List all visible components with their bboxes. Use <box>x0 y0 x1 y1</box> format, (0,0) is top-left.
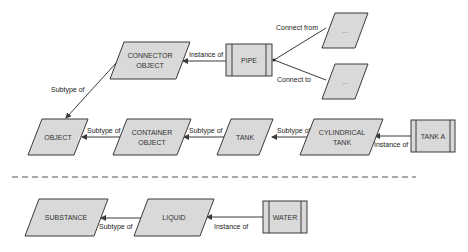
node-tank[interactable]: TANK <box>217 119 273 155</box>
svg-text:...: ... <box>342 77 349 86</box>
edge-label: Instance of <box>214 223 248 230</box>
edge-pipe-connect-to: Connect to <box>274 60 326 83</box>
svg-text:OBJECT: OBJECT <box>44 134 72 141</box>
svg-text:...: ... <box>342 26 349 35</box>
edge-label: Subtype of <box>51 86 85 94</box>
svg-text:WATER: WATER <box>273 214 298 221</box>
svg-text:TANK A: TANK A <box>421 133 446 140</box>
edge-water-instance-of-liquid: Instance of <box>207 217 263 230</box>
svg-text:OBJECT: OBJECT <box>138 139 166 146</box>
node-substance[interactable]: SUBSTANCE <box>25 199 108 236</box>
svg-text:CONNECTOR: CONNECTOR <box>128 52 173 59</box>
edge-label: Connect to <box>277 76 311 83</box>
svg-text:TANK: TANK <box>236 134 254 141</box>
node-connect-from-target[interactable]: ... <box>322 13 368 48</box>
node-connector-object[interactable]: CONNECTOR OBJECT <box>110 42 190 79</box>
svg-text:CONTAINER: CONTAINER <box>132 129 173 136</box>
node-container-object[interactable]: CONTAINER OBJECT <box>113 119 191 155</box>
edge-label: Instance of <box>189 51 223 58</box>
node-cylindrical-tank[interactable]: CYLINDRICAL TANK <box>300 119 383 155</box>
edge-tanka-instance-of-cylindrical: Instance of <box>374 136 411 148</box>
node-object[interactable]: OBJECT <box>28 119 88 155</box>
edge-tank-subtype-of-container: Subtype of <box>184 127 224 137</box>
edge-label: Instance of <box>374 141 408 148</box>
svg-text:LIQUID: LIQUID <box>162 214 185 222</box>
ontology-diagram: Instance of Connect from Connect to Subt… <box>0 0 468 252</box>
edge-cylindrical-subtype-of-tank: Subtype of <box>272 127 311 137</box>
svg-text:SUBSTANCE: SUBSTANCE <box>45 214 88 221</box>
edge-label: Subtype of <box>277 127 311 135</box>
node-tank-a[interactable]: TANK A <box>411 120 455 152</box>
edge-connector-subtype-of-object: Subtype of <box>51 62 117 118</box>
edge-label: Subtype of <box>87 127 121 135</box>
node-connect-to-target[interactable]: ... <box>322 64 368 99</box>
svg-text:TANK: TANK <box>333 139 351 146</box>
edge-container-subtype-of-object: Subtype of <box>82 127 121 137</box>
edge-pipe-connect-from: Connect from <box>272 24 326 62</box>
edge-label: Subtype of <box>99 223 133 231</box>
edge-label: Connect from <box>276 24 318 31</box>
node-water[interactable]: WATER <box>263 201 307 233</box>
svg-text:OBJECT: OBJECT <box>136 62 164 69</box>
svg-text:CYLINDRICAL: CYLINDRICAL <box>319 129 365 136</box>
edge-liquid-subtype-of-substance: Subtype of <box>99 218 141 231</box>
svg-text:PIPE: PIPE <box>241 57 257 64</box>
edge-label: Subtype of <box>189 127 223 135</box>
edge-pipe-instance-of-connector: Instance of <box>183 51 226 61</box>
node-pipe[interactable]: PIPE <box>226 44 272 76</box>
node-liquid[interactable]: LIQUID <box>134 199 214 236</box>
